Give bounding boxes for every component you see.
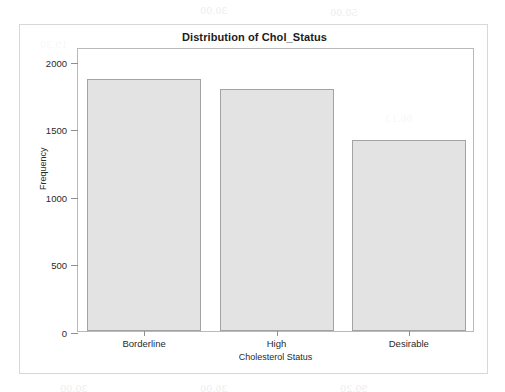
x-axis-title: Cholesterol Status [77,352,474,362]
x-axis-tick-label: Desirable [389,338,429,349]
y-axis-tick-label: 1000 [46,192,67,203]
x-axis-tick [409,331,410,336]
y-axis-tick: 0 [71,333,78,334]
y-axis-tick: 1000 [71,198,78,199]
plot-inner: 0500100015002000BorderlineHighDesirable [78,49,473,331]
y-axis-tick-label: 2000 [46,57,67,68]
ghost-text: 36.00 [200,382,227,392]
x-axis-tick-label: Borderline [123,338,166,349]
ghost-text: 30.00 [200,4,227,16]
bar-high [220,89,334,331]
plot-area: 0500100015002000BorderlineHighDesirable [77,48,474,332]
ghost-text: 90.20 [340,382,367,392]
y-axis-tick-label: 1500 [46,125,67,136]
bar-desirable [352,140,466,331]
bar-borderline [87,79,201,331]
x-axis-tick-label: High [267,338,287,349]
y-axis-tick: 1500 [71,130,78,131]
ghost-text: 30.00 [60,382,87,392]
chart-title: Distribution of Chol_Status [20,31,489,43]
x-axis-tick [277,331,278,336]
y-axis-title: Frequency [38,147,48,190]
ghost-text: 50.00 [330,6,357,18]
y-axis-tick-label: 0 [62,328,67,339]
x-axis-tick [144,331,145,336]
y-axis-tick-label: 500 [51,260,67,271]
chart-card: Distribution of Chol_Status Frequency 05… [19,24,488,374]
y-axis-tick: 500 [71,265,78,266]
y-axis-tick: 2000 [71,63,78,64]
